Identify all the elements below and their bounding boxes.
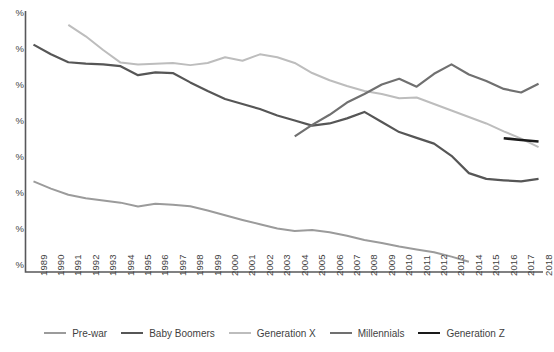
y-axis-tick-label: % [0,79,24,90]
x-axis-tick-label: 1997 [177,254,188,276]
x-axis-tick-label: 2002 [264,254,275,276]
legend-label: Pre-war [72,328,107,339]
legend-item-baby-boomers[interactable]: Baby Boomers [121,328,215,339]
series-line-pre-war [34,181,469,261]
legend-swatch-icon [44,332,66,334]
legend-swatch-icon [418,332,440,334]
x-axis-tick-label: 2001 [246,254,257,276]
x-axis-tick-label: 2017 [525,254,536,276]
legend-swatch-icon [121,332,143,334]
x-axis-tick-label: 2015 [490,254,501,276]
legend-item-generation-z[interactable]: Generation Z [418,328,504,339]
x-axis-tick-label: 1995 [142,254,153,276]
y-axis-tick-label: % [0,7,24,18]
legend-item-generation-x[interactable]: Generation X [229,328,316,339]
x-axis-tick-label: 2013 [455,254,466,276]
x-axis-tick-label: 2008 [368,254,379,276]
x-axis-tick-label: 2006 [334,254,345,276]
x-axis-tick-label: 2009 [386,254,397,276]
x-axis-tick-label: 2007 [351,254,362,276]
legend-swatch-icon [330,332,352,334]
legend-item-pre-war[interactable]: Pre-war [44,328,107,339]
legend-label: Millennials [358,328,405,339]
y-axis-tick-label: % [0,115,24,126]
y-axis-tick-labels: %%%%%%%% [0,0,24,352]
series-group [34,25,539,262]
x-axis-tick-label: 2004 [299,254,310,276]
series-line-generation-x [68,25,538,147]
chart-legend: Pre-warBaby BoomersGeneration XMillennia… [0,323,549,343]
x-axis-tick-label: 1993 [107,254,118,276]
legend-label: Generation X [257,328,316,339]
y-axis-tick-label: % [0,187,24,198]
y-axis-tick-label: % [0,259,24,270]
x-axis-tick-label: 1991 [72,254,83,276]
y-axis-tick-label: % [0,151,24,162]
x-axis-tick-label: 2014 [473,254,484,276]
x-axis-tick-label: 1992 [90,254,101,276]
legend-swatch-icon [229,332,251,334]
x-axis-tick-label: 2000 [229,254,240,276]
x-axis-tick-label: 2012 [438,254,449,276]
x-axis-tick-label: 1989 [38,254,49,276]
legend-label: Baby Boomers [149,328,215,339]
x-axis-tick-label: 2018 [543,254,554,276]
legend-item-millennials[interactable]: Millennials [330,328,405,339]
x-axis-tick-label: 1994 [125,254,136,276]
legend-label: Generation Z [446,328,504,339]
x-axis-tick-label: 2003 [281,254,292,276]
x-axis-tick-label: 1999 [212,254,223,276]
x-axis-tick-label: 1996 [159,254,170,276]
x-axis-tick-label: 2011 [421,255,432,276]
y-axis-tick-label: % [0,223,24,234]
y-axis-tick-label: % [0,43,24,54]
x-axis-tick-label: 2010 [403,254,414,276]
x-axis-tick-label: 1990 [55,254,66,276]
x-axis-tick-label: 2016 [508,254,519,276]
series-line-baby-boomers [34,45,539,182]
series-line-millennials [295,64,539,136]
x-axis-tick-label: 2005 [316,254,327,276]
x-axis-tick-label: 1998 [194,254,205,276]
